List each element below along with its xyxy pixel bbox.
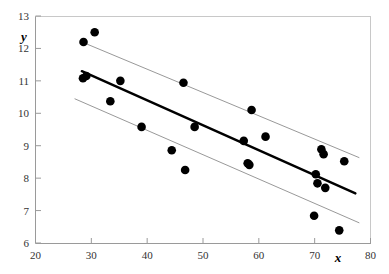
x-tick-label: 30	[86, 249, 98, 261]
data-point	[167, 146, 176, 155]
y-tick-label: 11	[18, 75, 29, 87]
data-point	[245, 161, 254, 170]
data-point	[82, 72, 91, 81]
data-point	[313, 179, 322, 188]
data-point	[179, 79, 188, 88]
y-tick-label: 7	[24, 205, 30, 217]
data-point	[90, 28, 99, 37]
x-tick-label: 20	[30, 249, 42, 261]
data-point	[321, 184, 330, 193]
x-tick-label: 40	[142, 249, 154, 261]
data-point	[116, 77, 125, 86]
x-tick-label: 50	[198, 249, 210, 261]
y-tick-label: 9	[24, 140, 30, 152]
scatter-plot-figure: 678910111213 20304050607080 y x	[0, 0, 389, 274]
data-point	[247, 106, 256, 115]
data-point	[311, 170, 320, 179]
data-point	[239, 137, 248, 146]
data-point	[181, 166, 190, 175]
y-tick-label: 8	[24, 172, 30, 184]
plot-canvas: 678910111213 20304050607080 y x	[0, 0, 389, 274]
data-point	[335, 226, 344, 235]
data-point	[106, 97, 115, 106]
data-point	[340, 157, 349, 166]
y-tick-label: 12	[18, 42, 29, 54]
data-point	[319, 150, 328, 159]
y-tick-label: 6	[24, 237, 30, 249]
data-point	[261, 132, 270, 141]
x-tick-label: 70	[309, 249, 321, 261]
data-point	[310, 211, 319, 220]
y-tick-label: 10	[18, 107, 30, 119]
data-point	[79, 38, 88, 47]
y-tick-label: 13	[18, 10, 30, 22]
x-tick-label: 80	[365, 249, 377, 261]
figure-background	[0, 0, 389, 274]
data-point	[137, 123, 146, 132]
x-tick-label: 60	[253, 249, 265, 261]
x-axis-title: x	[334, 250, 342, 265]
data-point	[190, 123, 199, 132]
y-axis-title: y	[19, 29, 27, 44]
